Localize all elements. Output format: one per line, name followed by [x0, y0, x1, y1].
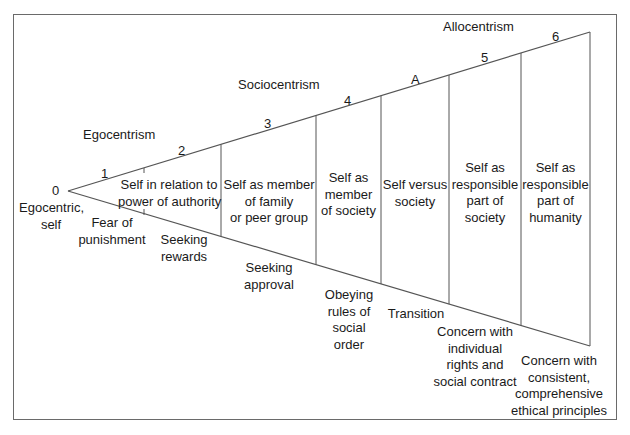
motive-label-punishment: Fear of punishment: [76, 215, 148, 248]
zone-label-egocentrism: Egocentrism: [83, 127, 155, 143]
stage-cell-versus-society: Self versus society: [381, 177, 449, 210]
marker-6: 6: [552, 30, 559, 44]
marker-0: 0: [52, 184, 59, 198]
zone-label-sociocentrism: Sociocentrism: [238, 77, 320, 93]
motive-label-transition: Transition: [384, 306, 448, 323]
marker-5: 5: [481, 51, 488, 65]
motive-label-approval: Seeking approval: [237, 260, 301, 293]
marker-a: A: [411, 73, 420, 87]
stage-cell-society-member: Self as member of society: [316, 170, 381, 220]
marker-4: 4: [344, 94, 351, 108]
motive-label-social-order: Obeying rules of social order: [316, 287, 382, 353]
marker-1: 1: [101, 167, 108, 181]
stage-cell-responsible-society: Self as responsible part of society: [449, 160, 521, 226]
marker-3: 3: [264, 117, 271, 131]
zone-label-allocentrism: Allocentrism: [443, 19, 514, 35]
motive-label-rewards: Seeking rewards: [152, 232, 216, 265]
stage-cell-authority: Self in relation to power of authority: [118, 177, 220, 210]
origin-label: Egocentric, self: [19, 200, 83, 233]
motive-label-ethical-principles: Concern with consistent, comprehensive e…: [503, 353, 615, 419]
stage-cell-family: Self as member of family or peer group: [222, 177, 316, 227]
marker-2: 2: [178, 144, 185, 158]
stage-cell-responsible-humanity: Self as responsible part of humanity: [521, 160, 590, 226]
